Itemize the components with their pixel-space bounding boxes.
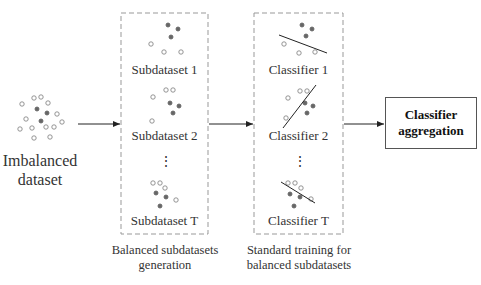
subdataset-2-label: Subdataset 2	[121, 128, 208, 144]
classifier-t-label: Classifier T	[254, 213, 343, 229]
classifiers-ellipsis: ⋮	[293, 159, 303, 164]
classifiers-caption: Standard training for balanced subdatase…	[238, 243, 360, 273]
subdataset-t-scatter-icon	[151, 181, 178, 208]
classifier-2-boundary-icon	[283, 85, 316, 128]
subdatasets-caption: Balanced subdatasets generation	[104, 243, 226, 273]
classifier-aggregation-box: Classifier aggregation	[385, 97, 477, 149]
subdataset-2-scatter-icon	[150, 88, 181, 123]
subdataset-1-scatter-icon	[149, 23, 183, 54]
imbalanced-dataset-scatter-icon	[18, 95, 64, 140]
classifier-1-boundary-icon	[279, 23, 327, 55]
subdataset-1-label: Subdataset 1	[121, 62, 208, 78]
classifier-1-label: Classifier 1	[254, 62, 343, 78]
subdatasets-dashed-box	[121, 13, 208, 234]
classifiers-dashed-box	[254, 13, 343, 234]
classifier-2-label: Classifier 2	[254, 128, 343, 144]
imbalanced-dataset-label: Imbalanced dataset	[2, 151, 78, 189]
classifier-t-boundary-icon	[281, 181, 315, 208]
subdatasets-ellipsis: ⋮	[159, 159, 169, 164]
subdataset-t-label: Subdataset T	[121, 213, 208, 229]
